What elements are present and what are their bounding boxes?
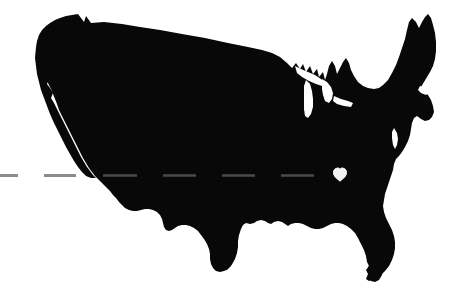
image-canvas: United States silhouette map with heart … (0, 0, 471, 298)
us-map-graphic (0, 0, 471, 298)
